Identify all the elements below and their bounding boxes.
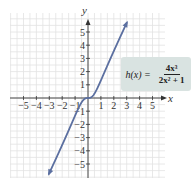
- function-fraction: 4x³ 2x² + 1: [157, 63, 187, 86]
- function-denominator: 2x² + 1: [157, 75, 187, 86]
- y-tick-label: 3: [80, 53, 85, 64]
- y-axis-label: y: [81, 4, 87, 16]
- x-tick-label: 2: [111, 100, 116, 111]
- x-tick-label: −3: [44, 100, 55, 111]
- x-tick-label: −5: [18, 100, 29, 111]
- y-tick-label: 1: [80, 79, 85, 90]
- function-graph: −5−4−3−2−112345−5−4−3−2−112345 x y: [0, 0, 193, 185]
- grid-lines: [10, 13, 165, 178]
- x-tick-label: −4: [31, 100, 42, 111]
- y-tick-label: 5: [80, 27, 85, 38]
- function-callout: h(x) = 4x³ 2x² + 1: [121, 57, 191, 91]
- function-numerator: 4x³: [164, 63, 180, 75]
- x-tick-label: 1: [98, 100, 103, 111]
- x-tick-label: 5: [150, 100, 155, 111]
- function-lhs: h(x) =: [125, 69, 150, 80]
- y-tick-label: 2: [80, 66, 85, 77]
- y-tick-label: −3: [74, 132, 85, 143]
- x-tick-label: 4: [137, 100, 142, 111]
- y-tick-label: 4: [80, 40, 85, 51]
- x-tick-label: 3: [124, 100, 129, 111]
- y-tick-label: −5: [74, 159, 85, 170]
- y-tick-label: −2: [74, 119, 85, 130]
- x-tick-label: −2: [57, 100, 68, 111]
- y-tick-label: −4: [74, 145, 85, 156]
- x-axis-label: x: [167, 92, 173, 104]
